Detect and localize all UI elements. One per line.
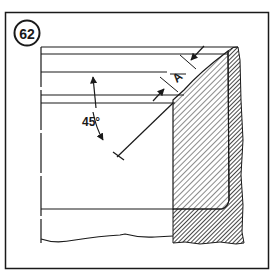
bottom-break-line bbox=[41, 234, 173, 242]
dimension-label: A bbox=[170, 69, 186, 86]
figure-number: 62 bbox=[19, 26, 35, 42]
figure-number-badge: 62 bbox=[15, 21, 40, 46]
inner-block-section bbox=[173, 51, 229, 209]
angle-label: 45° bbox=[82, 115, 100, 129]
technical-diagram: 62 45° A bbox=[0, 0, 274, 277]
angle-45-line bbox=[117, 103, 173, 157]
angle-tick bbox=[113, 152, 124, 160]
dimension-arrow-upper bbox=[191, 46, 204, 60]
